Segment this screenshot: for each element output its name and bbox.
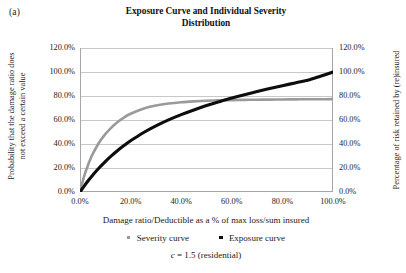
legend-item-severity[interactable]: Severity curve: [127, 232, 189, 243]
figure-container: (a) Exposure Curve and Individual Severi…: [0, 0, 406, 273]
legend-item-exposure[interactable]: Exposure curve: [219, 232, 285, 243]
y-axis-tick-label-left: 80.0%: [33, 91, 75, 100]
y-axis-tick-label-right: 20.0%: [339, 163, 383, 172]
plot-area: [80, 48, 333, 192]
chart-title-line-1: Exposure Curve and Individual Severity: [78, 6, 334, 18]
y-axis-tick-label-right: 100.0%: [339, 67, 383, 76]
chart-title: Exposure Curve and Individual Severity D…: [78, 6, 334, 29]
panel-label: (a): [9, 7, 20, 17]
y-axis-tick-label-left: 20.0%: [33, 163, 75, 172]
y-axis-tick-label-left: 0.0%: [33, 187, 75, 196]
chart-legend: Severity curve Exposure curve: [53, 232, 359, 243]
x-axis-title: Damage ratio/Deductible as a % of max lo…: [53, 215, 359, 225]
x-axis-tick-label: 40.0%: [159, 197, 203, 206]
y-axis-tick-label-left: 60.0%: [33, 115, 75, 124]
x-axis-tick-label: 20.0%: [109, 197, 153, 206]
legend-label-severity: Severity curve: [137, 233, 189, 243]
caption-text: = 1.5 (residential): [175, 250, 242, 260]
y-axis-tick-label-right: 40.0%: [339, 139, 383, 148]
severity-curve: [80, 99, 333, 192]
legend-marker-exposure-icon: [219, 236, 223, 240]
chart-title-line-2: Distribution: [78, 18, 334, 30]
x-axis-tick-label: 80.0%: [260, 197, 304, 206]
y-axis-title-left-line-1: Probability that the damage ratio does: [7, 40, 16, 192]
y-axis-tick-label-right: 60.0%: [339, 115, 383, 124]
y-axis-tick-label-right: 120.0%: [339, 43, 383, 52]
y-axis-tick-label-left: 120.0%: [33, 43, 75, 52]
legend-label-exposure: Exposure curve: [229, 233, 285, 243]
y-axis-tick-label-left: 100.0%: [33, 67, 75, 76]
x-axis-tick-label: 60.0%: [210, 197, 254, 206]
y-axis-title-right: Percentage of risk retained by (re)insur…: [392, 35, 401, 205]
x-axis-tick-label: 100.0%: [311, 197, 355, 206]
exposure-curve: [80, 72, 333, 192]
y-axis-tick-label-left: 40.0%: [33, 139, 75, 148]
chart-caption: c = 1.5 (residential): [53, 250, 359, 260]
legend-marker-severity-icon: [127, 236, 131, 240]
y-axis-tick-label-right: 80.0%: [339, 91, 383, 100]
series-layer: [80, 72, 333, 192]
x-axis-tick-label: 0.0%: [58, 197, 102, 206]
y-axis-tick-label-right: 0.0%: [339, 187, 383, 196]
plot-svg: [80, 48, 333, 192]
y-axis-title-left-line-2: not exceed a certain value: [18, 40, 27, 192]
